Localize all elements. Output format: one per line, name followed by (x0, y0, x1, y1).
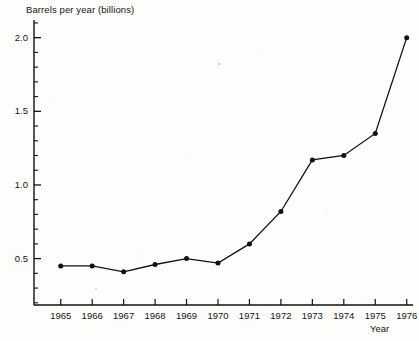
paper-speck (218, 63, 220, 65)
data-point-marker (341, 153, 346, 158)
x-tick-label: 1968 (138, 310, 172, 321)
data-series-line (61, 38, 407, 272)
x-tick-label: 1972 (264, 310, 298, 321)
x-tick-label: 1975 (358, 310, 392, 321)
x-tick-label: 1966 (75, 310, 109, 321)
data-point-marker (404, 35, 409, 40)
data-point-markers (58, 35, 409, 274)
x-tick-label: 1974 (327, 310, 361, 321)
data-point-marker (58, 263, 63, 268)
x-tick-label: 1971 (232, 310, 266, 321)
x-tick-label: 1973 (295, 310, 329, 321)
data-point-marker (153, 262, 158, 267)
data-point-marker (373, 131, 378, 136)
y-tick-label: 2.0 (2, 32, 28, 43)
y-tick-label: 1.5 (2, 105, 28, 116)
x-tick-label: 1976 (390, 310, 419, 321)
data-point-marker (215, 261, 220, 266)
y-tick-label: 0.5 (2, 253, 28, 264)
x-tick-label: 1965 (44, 310, 78, 321)
x-tick-label: 1969 (170, 310, 204, 321)
x-tick-label: 1967 (107, 310, 141, 321)
x-axis-title: Year (370, 323, 389, 334)
x-tick-label: 1970 (201, 310, 235, 321)
line-chart: Barrels per year (billions) 0.51.01.52.0… (0, 0, 419, 341)
data-point-marker (184, 256, 189, 261)
data-point-marker (247, 241, 252, 246)
data-point-marker (90, 263, 95, 268)
paper-speck (95, 288, 97, 290)
data-point-marker (310, 157, 315, 162)
data-point-marker (278, 209, 283, 214)
data-point-marker (121, 269, 126, 274)
y-tick-label: 1.0 (2, 179, 28, 190)
x-tick-marks (61, 299, 407, 305)
chart-canvas (0, 0, 419, 341)
y-tick-marks (34, 23, 41, 303)
axes-group (34, 20, 413, 305)
